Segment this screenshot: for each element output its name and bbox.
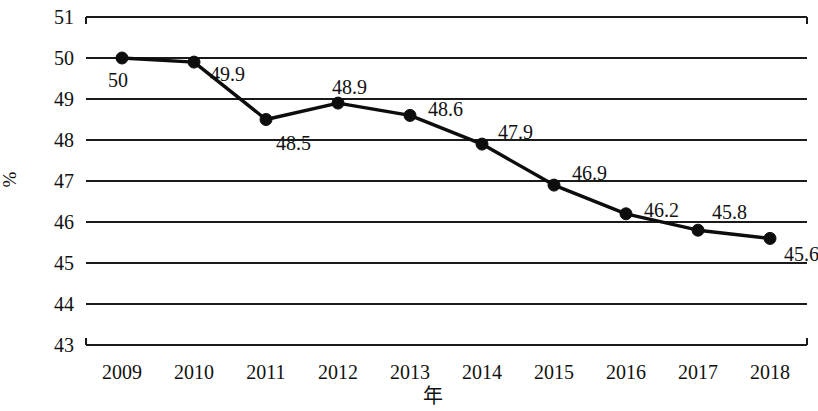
data-point-marker (404, 109, 416, 121)
series-line (122, 58, 770, 238)
chart-page: % 年 515049484746454443 20092010201120122… (0, 0, 818, 411)
data-point-marker (764, 232, 776, 244)
data-point-marker (116, 52, 128, 64)
data-point-marker (692, 224, 704, 236)
line-chart-plot (0, 0, 818, 411)
data-point-marker (332, 97, 344, 109)
data-point-marker (260, 114, 272, 126)
data-point-marker (548, 179, 560, 191)
data-point-marker (476, 138, 488, 150)
data-point-marker (188, 56, 200, 68)
data-point-marker (620, 208, 632, 220)
